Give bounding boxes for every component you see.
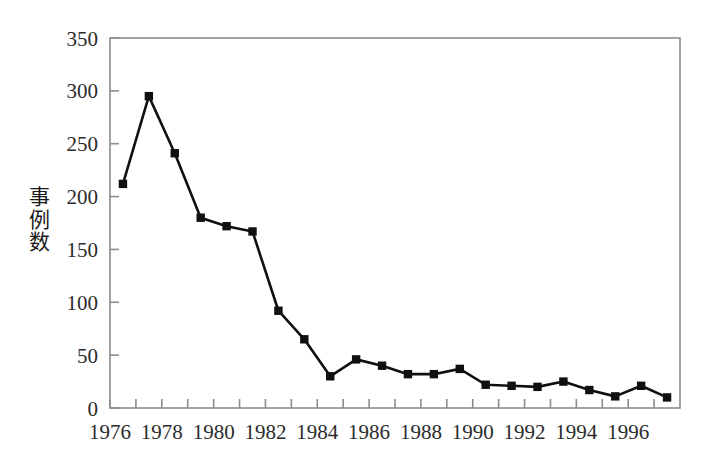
data-point-marker [248, 227, 256, 235]
data-point-marker [145, 92, 153, 100]
data-point-marker [481, 381, 489, 389]
data-point-marker [326, 372, 334, 380]
y-axis-tick-label: 350 [67, 27, 99, 51]
x-axis-tick-label: 1980 [193, 420, 235, 444]
x-axis-tick-labels: 1976197819801982198419861988199019921994… [89, 420, 649, 444]
x-axis-tick-label: 1986 [348, 420, 390, 444]
y-axis-tick-label: 200 [67, 185, 99, 209]
data-point-marker [430, 370, 438, 378]
data-point-marker [274, 307, 282, 315]
x-axis-tick-label: 1984 [296, 420, 339, 444]
data-point-marker [456, 365, 464, 373]
x-axis-tick-label: 1982 [244, 420, 286, 444]
line-chart-plot: 050100150200250300350 197619781980198219… [0, 0, 720, 472]
data-point-marker [637, 382, 645, 390]
y-axis-tick-label: 150 [67, 238, 99, 262]
data-point-marker [119, 180, 127, 188]
y-axis-tick-label: 100 [67, 291, 99, 315]
x-axis-tick-label: 1978 [141, 420, 183, 444]
x-axis-tick-label: 1976 [89, 420, 131, 444]
plot-background [110, 38, 680, 408]
data-point-marker [533, 383, 541, 391]
data-point-marker [222, 222, 230, 230]
y-axis-tick-label: 0 [88, 397, 99, 421]
data-point-marker [378, 362, 386, 370]
x-axis-tick-label: 1994 [555, 420, 598, 444]
data-point-marker [559, 377, 567, 385]
x-axis-tick-label: 1996 [607, 420, 649, 444]
data-point-marker [196, 214, 204, 222]
data-point-marker [352, 355, 360, 363]
data-point-marker [507, 382, 515, 390]
x-axis-tick-label: 1992 [504, 420, 546, 444]
y-axis-tick-labels: 050100150200250300350 [67, 27, 99, 421]
chart-figure: 事 例 数 050100150200250300350 197619781980… [0, 0, 720, 472]
data-point-marker [300, 335, 308, 343]
data-point-marker [611, 392, 619, 400]
x-axis-tick-label: 1988 [400, 420, 442, 444]
data-point-marker [663, 393, 671, 401]
y-axis-tick-label: 300 [67, 79, 99, 103]
y-axis-tick-label: 50 [77, 344, 98, 368]
data-point-marker [585, 386, 593, 394]
x-axis-tick-label: 1990 [452, 420, 494, 444]
data-point-marker [404, 370, 412, 378]
y-axis-tick-label: 250 [67, 132, 99, 156]
data-point-marker [171, 149, 179, 157]
